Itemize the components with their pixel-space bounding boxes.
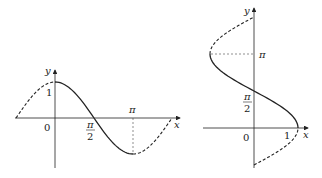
x-tick-1: 1 — [284, 130, 290, 141]
half-pi-numerator: π — [86, 119, 94, 130]
left-graph: y x 0 1 π 2 π — [15, 65, 180, 168]
half-pi-denominator: 2 — [87, 131, 93, 142]
pi-label: π — [128, 104, 136, 115]
origin-label: 0 — [243, 132, 249, 143]
cos-curve-dashed-right — [133, 118, 172, 154]
right-graph: y x 0 1 π 2 π — [203, 5, 309, 168]
y-axis-label: y — [243, 5, 250, 16]
half-pi-numerator: π — [243, 91, 251, 102]
half-pi-denominator: 2 — [244, 103, 250, 114]
y-axis-label: y — [44, 65, 51, 76]
cos-curve-dashed-top — [210, 17, 254, 54]
pi-label: π — [258, 49, 266, 60]
x-axis-label: x — [303, 129, 309, 140]
cos-curve-dashed-bottom — [254, 128, 298, 165]
origin-label: 0 — [44, 122, 50, 133]
figure: y x 0 1 π 2 π y x 0 1 π 2 π — [0, 0, 322, 178]
y-tick-1: 1 — [46, 87, 52, 98]
x-axis-label: x — [174, 119, 180, 130]
